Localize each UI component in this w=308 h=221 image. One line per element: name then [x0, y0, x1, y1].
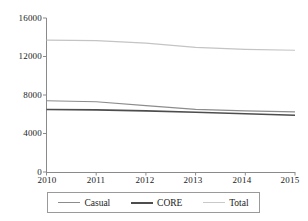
legend-item-total: Total: [203, 198, 248, 208]
legend-label-casual: Casual: [84, 198, 110, 208]
data-series-group: [47, 40, 296, 115]
series-line-core: [47, 109, 296, 115]
legend-item-casual: Casual: [58, 198, 110, 208]
chart-container: 16000 12000 8000 4000 0 2010 2011 2012 2…: [0, 0, 308, 221]
legend-item-core: CORE: [131, 198, 182, 208]
legend-swatch-core: [131, 202, 153, 204]
x-tick-label-2011: 2011: [78, 175, 114, 185]
legend-swatch-total: [203, 202, 225, 203]
y-tick-label-8000: 8000: [2, 90, 42, 100]
x-tick-label-2012: 2012: [127, 175, 163, 185]
chart-legend: Casual CORE Total: [47, 192, 260, 213]
legend-label-total: Total: [229, 198, 248, 208]
x-tick-label-2014: 2014: [224, 175, 260, 185]
legend-swatch-casual: [58, 202, 80, 203]
x-tick-label-2013: 2013: [175, 175, 211, 185]
y-tick-label-16000: 16000: [2, 13, 42, 23]
x-tick-label-2010: 2010: [29, 175, 65, 185]
x-tick-label-2015: 2015: [272, 175, 308, 185]
line-chart-svg: [0, 0, 308, 221]
y-axis-ticks: [43, 18, 47, 172]
series-line-total: [47, 40, 296, 50]
y-tick-label-4000: 4000: [2, 128, 42, 138]
y-tick-label-12000: 12000: [2, 51, 42, 61]
legend-label-core: CORE: [157, 198, 182, 208]
